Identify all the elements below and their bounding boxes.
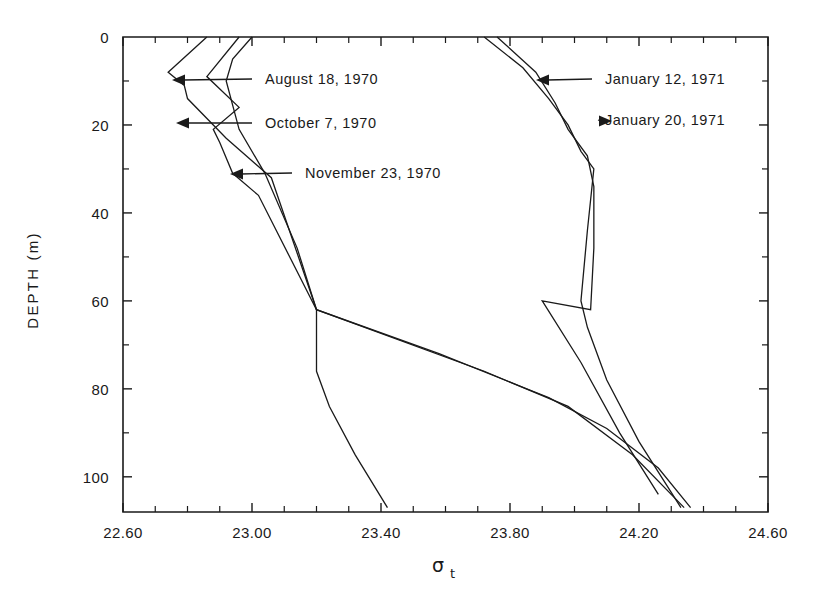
x-tick-label: 24.20 [619, 524, 659, 541]
annotation-label: January 12, 1971 [605, 71, 725, 87]
annotation-arrowhead [176, 118, 189, 129]
data-series-group [168, 37, 690, 508]
annotation-leader-line [547, 79, 592, 80]
annotation-0: August 18, 1970 [172, 71, 378, 87]
plot-frame [123, 37, 768, 512]
series-line-3 [484, 37, 681, 508]
y-tick-label: 20 [92, 117, 110, 134]
series-line-2 [226, 37, 690, 508]
annotation-leader-line [241, 173, 292, 174]
annotation-label: November 23, 1970 [305, 165, 441, 181]
annotation-label: October 7, 1970 [265, 115, 377, 131]
x-tick-label: 23.80 [490, 524, 530, 541]
sigma-t-depth-profile-chart: 22.6023.0023.4023.8024.2024.60 020406080… [0, 0, 826, 595]
series-annotations: August 18, 1970October 7, 1970November 2… [172, 71, 725, 181]
y-tick-label: 100 [83, 469, 109, 486]
annotation-3: January 12, 1971 [536, 71, 725, 87]
y-tick-label: 80 [92, 381, 110, 398]
series-line-1 [207, 37, 684, 508]
axis-frame [123, 37, 768, 512]
x-tick-label: 23.40 [361, 524, 401, 541]
annotation-label: January 20, 1971 [605, 112, 725, 128]
series-line-0 [168, 37, 387, 508]
series-line-4 [497, 37, 658, 494]
sigma-symbol: σ [432, 554, 444, 576]
depth-profile-figure: 22.6023.0023.4023.8024.2024.60 020406080… [0, 0, 826, 595]
y-axis-tick-labels: 020406080100 [83, 29, 109, 486]
x-axis-title: σ t [432, 554, 455, 581]
y-tick-label: 0 [100, 29, 109, 46]
y-tick-label: 60 [92, 293, 110, 310]
x-tick-label: 23.00 [232, 524, 272, 541]
y-tick-label: 40 [92, 205, 110, 222]
x-tick-label: 24.60 [748, 524, 788, 541]
annotation-4: January 20, 1971 [598, 112, 725, 128]
y-axis-title: DEPTH (m) [24, 231, 41, 328]
x-axis-ticks [123, 37, 768, 512]
annotation-leader-line [183, 79, 252, 80]
x-tick-label: 22.60 [103, 524, 143, 541]
annotation-label: August 18, 1970 [265, 71, 378, 87]
x-axis-tick-labels: 22.6023.0023.4023.8024.2024.60 [103, 524, 788, 541]
y-axis-ticks [123, 81, 768, 477]
sigma-subscript-t: t [450, 566, 455, 581]
